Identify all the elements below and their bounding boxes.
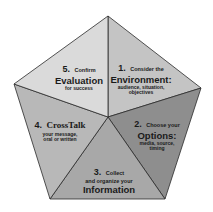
segment-2-label: 2. Choose your Options: media, source, t… [128,114,186,151]
segment-4-label: 4. CrossTalk your message, oral or writt… [26,115,94,142]
segment-3-label: 3. Collect and organize your Information [74,162,144,195]
segment-1-label: 1. Consider the Environment: audience, s… [108,58,174,95]
pentagon-diagram: 1. Consider the Environment: audience, s… [0,0,213,212]
segment-5-label: 5. Confirm Evaluation for success [52,59,106,91]
